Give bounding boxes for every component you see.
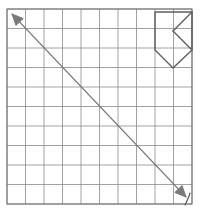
diagram-svg	[0, 0, 200, 214]
figure-canvas	[0, 0, 200, 214]
